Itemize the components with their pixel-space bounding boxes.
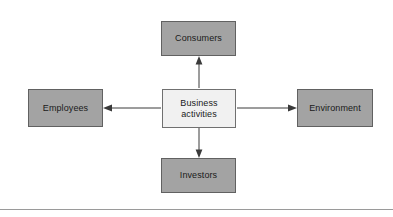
arrow-to-consumers-icon (196, 56, 203, 88)
diagram-canvas: Consumers Employees Environment Investor… (0, 0, 393, 217)
footer-divider (0, 209, 393, 210)
node-consumers-label: Consumers (173, 33, 224, 44)
node-consumers: Consumers (161, 21, 236, 56)
node-investors: Investors (161, 158, 236, 193)
node-environment-label: Environment (307, 103, 363, 114)
arrow-to-environment-icon (237, 105, 297, 112)
node-investors-label: Investors (178, 170, 219, 181)
node-employees: Employees (28, 89, 103, 127)
arrow-to-employees-icon (103, 105, 161, 112)
arrow-to-investors-icon (196, 128, 203, 158)
node-business-activities: Business activities (162, 89, 236, 128)
node-environment: Environment (297, 89, 373, 127)
node-business-activities-label: Business activities (178, 98, 219, 120)
node-employees-label: Employees (41, 103, 90, 114)
